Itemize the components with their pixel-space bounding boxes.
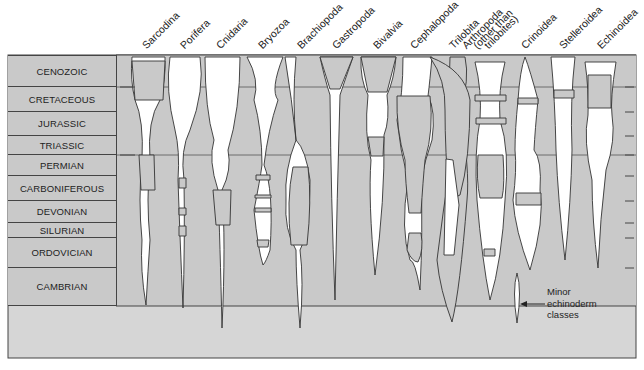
period-carboniferous: CARBONIFEROUS (8, 176, 116, 201)
note-line-2: echinoderm (547, 298, 597, 310)
period-triassic: TRIASSIC (8, 136, 116, 155)
period-cambrian: CAMBRIAN (8, 268, 116, 306)
period-permian: PERMIAN (8, 155, 116, 176)
period-ordovician: ORDOVICIAN (8, 238, 116, 268)
period-jurassic: JURASSIC (8, 112, 116, 136)
note-line-1: Minor (547, 286, 597, 298)
note-line-3: classes (547, 309, 597, 321)
period-silurian: SILURIAN (8, 223, 116, 238)
period-cretaceous: CRETACEOUS (8, 87, 116, 112)
minor-echinoderm-note: Minor echinoderm classes (547, 286, 597, 321)
period-column-divider (116, 55, 117, 306)
period-cenozoic: CENOZOIC (8, 55, 116, 87)
period-devonian: DEVONIAN (8, 201, 116, 223)
diversity-diagram: CENOZOIC CRETACEOUS JURASSIC TRIASSIC PE… (0, 0, 644, 370)
